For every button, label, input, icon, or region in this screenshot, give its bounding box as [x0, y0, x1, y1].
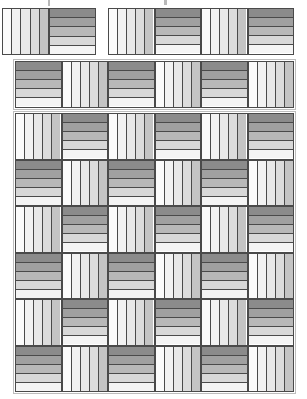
pattern-block-vertical-r2c2 — [108, 206, 155, 253]
block-stripe — [50, 26, 95, 35]
pattern-block-horizontal-r0c3 — [248, 8, 295, 55]
block-stripe — [98, 254, 107, 299]
block-stripe — [228, 207, 237, 252]
pattern-block-horizontal-r1c4 — [201, 160, 248, 207]
block-stripe — [98, 62, 107, 107]
block-stripe — [117, 300, 126, 345]
block-stripe — [182, 161, 191, 206]
pattern-block-vertical-r0c0 — [15, 113, 62, 160]
block-stripe — [156, 35, 201, 44]
block-stripe — [249, 131, 294, 140]
pattern-block-vertical-r0c4 — [201, 113, 248, 160]
block-stripe — [156, 149, 201, 158]
pattern-block-horizontal-r1c2 — [108, 160, 155, 207]
block-stripe — [109, 280, 154, 289]
block-stripe — [39, 9, 48, 54]
pattern-block-vertical-r1c3 — [155, 160, 202, 207]
block-stripe — [228, 9, 237, 54]
pattern-block-horizontal-r0c4 — [201, 61, 248, 108]
block-stripe — [249, 242, 294, 251]
pattern-block-horizontal-r4c5 — [248, 299, 295, 346]
block-stripe — [109, 300, 117, 345]
block-stripe — [202, 382, 247, 391]
scan-artifact-0 — [48, 0, 50, 6]
block-stripe — [164, 347, 173, 392]
block-stripe — [135, 300, 144, 345]
block-stripe — [275, 347, 284, 392]
block-stripe — [173, 161, 182, 206]
scan-artifact-1 — [164, 0, 167, 5]
block-stripe — [202, 347, 247, 355]
block-stripe — [16, 373, 61, 382]
block-stripe — [219, 9, 228, 54]
block-stripe — [50, 17, 95, 26]
block-stripe — [16, 364, 61, 373]
block-stripe — [284, 254, 293, 299]
block-stripe — [50, 9, 95, 17]
block-stripe — [63, 242, 108, 251]
block-stripe — [16, 79, 61, 88]
block-stripe — [164, 254, 173, 299]
block-stripe — [33, 114, 42, 159]
block-stripe — [63, 140, 108, 149]
block-stripe — [191, 254, 200, 299]
pattern-block-horizontal-r5c0 — [15, 346, 62, 393]
block-stripe — [63, 215, 108, 224]
block-stripe — [63, 114, 108, 122]
block-stripe — [249, 326, 294, 335]
block-stripe — [16, 88, 61, 97]
block-stripe — [109, 382, 154, 391]
block-stripe — [156, 44, 201, 53]
block-stripe — [249, 17, 294, 26]
block-stripe — [249, 122, 294, 131]
block-stripe — [202, 196, 247, 205]
pattern-block-vertical-r0c2 — [108, 113, 155, 160]
block-stripe — [202, 161, 247, 169]
pattern-block-horizontal-r4c1 — [62, 299, 109, 346]
block-stripe — [117, 114, 126, 159]
block-stripe — [156, 207, 201, 215]
block-stripe — [228, 114, 237, 159]
block-stripe — [144, 9, 153, 54]
block-stripe — [249, 114, 294, 122]
block-stripe — [16, 161, 61, 169]
block-stripe — [42, 300, 51, 345]
block-stripe — [249, 254, 257, 299]
block-stripe — [109, 355, 154, 364]
block-stripe — [202, 88, 247, 97]
block-stripe — [219, 207, 228, 252]
block-stripe — [109, 347, 154, 355]
block-stripe — [63, 161, 71, 206]
pattern-block-horizontal-r0c1 — [155, 8, 202, 55]
block-stripe — [202, 62, 247, 70]
block-stripe — [16, 347, 61, 355]
block-stripe — [191, 161, 200, 206]
block-stripe — [202, 9, 210, 54]
block-stripe — [275, 62, 284, 107]
block-stripe — [109, 289, 154, 298]
block-stripe — [16, 289, 61, 298]
block-stripe — [16, 254, 61, 262]
block-stripe — [191, 62, 200, 107]
block-stripe — [63, 300, 108, 308]
block-stripe — [156, 308, 201, 317]
block-stripe — [89, 254, 98, 299]
block-stripe — [156, 17, 201, 26]
block-stripe — [63, 233, 108, 242]
block-stripe — [249, 335, 294, 344]
block-stripe — [144, 114, 153, 159]
pattern-block-vertical-r0c5 — [248, 61, 295, 108]
block-stripe — [89, 161, 98, 206]
block-stripe — [63, 62, 71, 107]
block-stripe — [16, 169, 61, 178]
block-stripe — [210, 9, 219, 54]
block-stripe — [237, 9, 246, 54]
block-stripe — [219, 114, 228, 159]
block-stripe — [202, 178, 247, 187]
block-stripe — [80, 62, 89, 107]
block-stripe — [202, 355, 247, 364]
pattern-block-vertical-r3c5 — [248, 253, 295, 300]
block-stripe — [237, 300, 246, 345]
block-stripe — [63, 254, 71, 299]
block-stripe — [249, 308, 294, 317]
